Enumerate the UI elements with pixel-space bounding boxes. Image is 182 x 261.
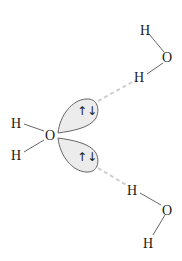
atom-h-bottom-far: H	[143, 236, 153, 251]
atom-h-top-far: H	[140, 23, 150, 38]
bond-bottom-o-h-far	[153, 215, 165, 235]
bond-o-h-lower	[24, 140, 44, 152]
atom-h-central-lower: H	[11, 148, 21, 163]
atom-o-central: O	[45, 128, 55, 143]
hydrogen-bond-lower	[98, 168, 128, 186]
electron-pair-lower-icon: ↑↓	[77, 150, 97, 164]
atom-h-bottom-bonded: H	[127, 183, 137, 198]
bond-o-h-upper	[24, 124, 44, 131]
electron-pair-upper-icon: ↑↓	[77, 104, 97, 118]
bond-top-o-h-bonded	[147, 63, 163, 74]
hydrogen-bond-diagram: H H O ↑↓ ↑↓ H O H H O H	[0, 0, 182, 261]
atom-o-top: O	[162, 50, 172, 65]
atom-h-top-bonded: H	[134, 70, 144, 85]
bond-bottom-o-h-bonded	[140, 193, 161, 205]
hydrogen-bond-upper	[98, 80, 136, 101]
atom-o-bottom: O	[162, 203, 172, 218]
atom-h-central-upper: H	[11, 116, 21, 131]
